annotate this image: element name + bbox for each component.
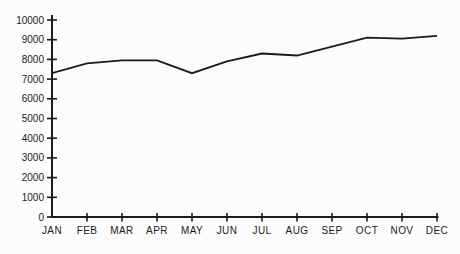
data-line: [52, 36, 437, 73]
y-tick-label: 5000: [22, 113, 45, 124]
x-tick-label: JUN: [217, 225, 238, 236]
y-tick-label: 1000: [22, 192, 45, 203]
x-tick-label: APR: [146, 225, 168, 236]
line-chart: 0100020003000400050006000700080009000100…: [0, 0, 460, 254]
y-tick-label: 7000: [22, 74, 45, 85]
y-tick-label: 4000: [22, 133, 45, 144]
x-tick-label: JAN: [42, 225, 62, 236]
y-tick-label: 2000: [22, 172, 45, 183]
y-tick-label: 0: [38, 212, 44, 223]
chart-figure: 0100020003000400050006000700080009000100…: [0, 0, 460, 254]
x-tick-label: AUG: [286, 225, 309, 236]
y-tick-label: 6000: [22, 93, 45, 104]
y-tick-label: 10000: [16, 15, 44, 26]
x-tick-label: MAR: [110, 225, 133, 236]
x-tick-label: FEB: [77, 225, 98, 236]
y-tick-label: 9000: [22, 34, 45, 45]
x-tick-label: MAY: [181, 225, 203, 236]
x-tick-label: DEC: [426, 225, 448, 236]
x-tick-label: JUL: [253, 225, 272, 236]
x-tick-label: SEP: [321, 225, 342, 236]
x-tick-label: OCT: [356, 225, 378, 236]
x-tick-label: NOV: [391, 225, 414, 236]
y-tick-label: 3000: [22, 152, 45, 163]
y-tick-label: 8000: [22, 54, 45, 65]
